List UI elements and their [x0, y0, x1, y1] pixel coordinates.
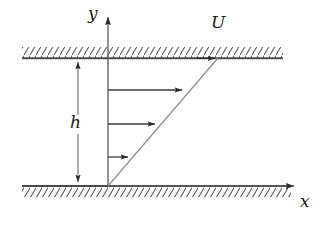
x-axis-label: x	[300, 193, 310, 210]
velocity-profile-line	[108, 58, 218, 186]
couette-flow-figure: y x U h	[0, 0, 329, 227]
top-plate-hatching	[22, 47, 283, 58]
figure-canvas	[0, 0, 329, 227]
velocity-vector-group	[108, 58, 215, 157]
gap-height-label: h	[70, 114, 81, 131]
bottom-plate	[22, 186, 291, 197]
top-plate-velocity-label: U	[211, 14, 225, 31]
top-plate	[22, 47, 283, 58]
y-axis-label: y	[88, 5, 98, 22]
bottom-plate-hatching	[22, 186, 291, 197]
